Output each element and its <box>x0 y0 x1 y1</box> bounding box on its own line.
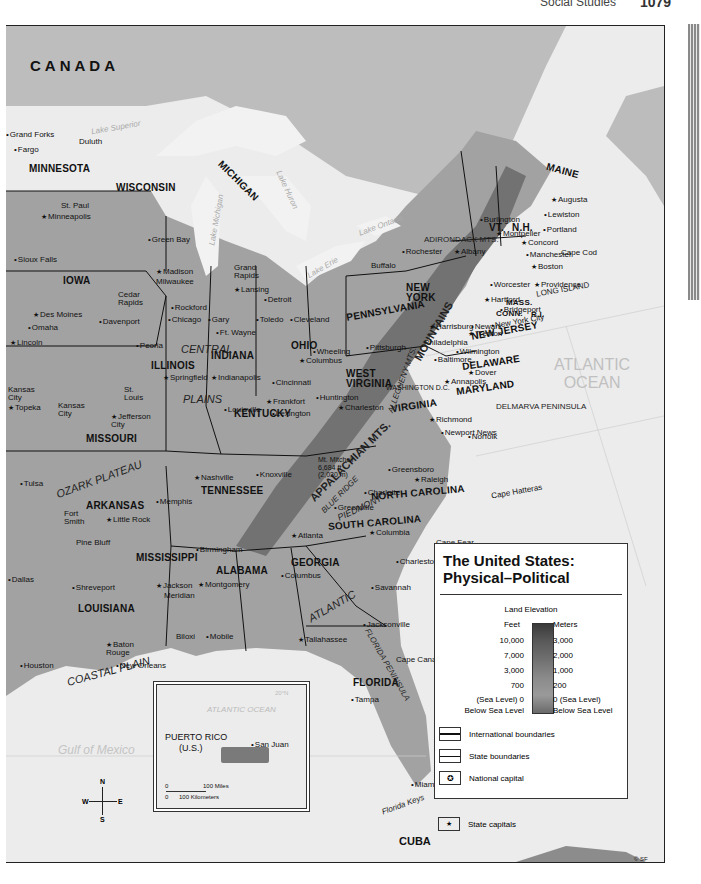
page-number: 1079 <box>640 0 671 10</box>
legend-state-capitals: ★ State capitals <box>438 817 516 831</box>
city-providence: Providence <box>534 281 581 289</box>
elevation-color-ramp <box>532 623 554 714</box>
city-richmond: Richmond <box>429 416 472 424</box>
city-louisville: Louisville <box>224 406 261 414</box>
city-kansas-city-mo: Kansas City <box>58 402 86 418</box>
state-georgia: GEORGIA <box>291 558 340 568</box>
city-baton-rouge: Baton Rouge <box>106 641 136 657</box>
city-jacksonville: Jacksonville <box>363 621 410 629</box>
international-boundary-icon <box>439 727 461 741</box>
city-knoxville: Knoxville <box>256 471 292 479</box>
city-hartford: Hartford <box>484 296 520 304</box>
inset-name-line1: PUERTO RICO <box>165 733 227 742</box>
city-portland: Portland <box>543 226 577 234</box>
state-arkansas: ARKANSAS <box>86 501 144 511</box>
city-toledo: Toledo <box>256 316 283 324</box>
city-jackson: Jackson <box>156 582 192 590</box>
copyright-label: © SF <box>634 856 648 862</box>
meters-header: Meters <box>553 620 577 629</box>
city-philadelphia: Philadelphia <box>424 339 468 347</box>
city-miami: Miami <box>411 781 436 789</box>
legend-international-boundaries: International boundaries <box>439 727 555 741</box>
city-st-paul: St. Paul <box>61 202 89 210</box>
land-elevation-title: Land Elevation <box>435 605 627 614</box>
state-illinois: ILLINOIS <box>151 361 195 371</box>
inset-ocean-label: ATLANTIC OCEAN <box>207 706 276 714</box>
gulf-of-mexico-label: Gulf of Mexico <box>58 744 135 756</box>
elevation-feet-3: 3,000 <box>504 666 524 675</box>
legend-national-capital: ✪ National capital <box>439 771 524 785</box>
city-springfield: Springfield <box>163 374 208 382</box>
state-tennessee: TENNESSEE <box>201 486 263 496</box>
state-mississippi: MISSISSIPPI <box>136 553 198 563</box>
city-tampa: Tampa <box>351 696 379 704</box>
state-louisiana: LOUISIANA <box>78 604 135 614</box>
city-concord: Concord <box>521 239 558 247</box>
city-lexington: Lexington <box>272 410 311 418</box>
city-albany: Albany <box>454 248 485 256</box>
city-wheeling: Wheeling <box>313 348 350 356</box>
city-rockford: Rockford <box>171 304 207 312</box>
city-charlotte: Charlotte <box>364 489 400 497</box>
elevation-feet-4: 700 <box>511 681 524 690</box>
puerto-rico-inset: ATLANTIC OCEAN 20°N PUERTO RICO (U.S.) S… <box>153 681 310 812</box>
feet-header: Feet <box>504 620 520 629</box>
subject-label: Social Studies <box>540 0 616 9</box>
city-boston: Boston <box>531 263 563 271</box>
city-new-orleans: New Orleans <box>116 662 166 670</box>
legend-divider <box>440 594 622 595</box>
city-manchester: Manchester <box>526 251 572 259</box>
region-delmarva-peninsula: DELMARVA PENINSULA <box>496 403 586 411</box>
city-annapolis: Annapolis <box>444 378 486 386</box>
city-harrisburg: Harrisburg <box>429 323 473 331</box>
city-charleston-sc: Charleston <box>396 558 439 566</box>
region-central: CENTRAL <box>181 344 232 355</box>
city-houston: Houston <box>20 662 54 670</box>
city-burlington: Burlington <box>480 216 520 224</box>
city-savannah: Savannah <box>371 584 411 592</box>
city-memphis: Memphis <box>156 498 192 506</box>
city-grand-rapids: Grand Rapids <box>234 264 264 280</box>
city-madison: Madison <box>156 268 193 276</box>
city-indianapolis: Indianapolis <box>211 374 261 382</box>
city-augusta: Augusta <box>551 196 587 204</box>
city-meridian: Meridian <box>164 592 195 600</box>
city-montpelier: Montpelier <box>496 230 540 238</box>
inset-scale-bar <box>166 791 206 792</box>
state-boundary-icon <box>439 749 461 763</box>
city-washington-dc: WASHINGTON D.C. <box>386 384 450 391</box>
city-minneapolis: Minneapolis <box>41 213 91 221</box>
city-charleston-wv: Charleston <box>338 404 384 412</box>
city-tallahassee: Tallahassee <box>298 636 347 644</box>
city-grand-forks: Grand Forks <box>6 131 54 139</box>
elevation-meters-5: 0 (Sea Level) <box>553 695 601 704</box>
state-capital-icon: ★ <box>438 817 460 831</box>
city-frankfort: Frankfort <box>266 398 305 406</box>
legend-state-boundaries: State boundaries <box>439 749 530 763</box>
city-kansas-city-ks: Kansas City <box>8 386 34 402</box>
city-raleigh: Raleigh <box>414 476 448 484</box>
city-little-rock: Little Rock <box>106 516 150 524</box>
state-minnesota: MINNESOTA <box>29 164 90 174</box>
city-cincinnati: Cincinnati <box>272 379 311 387</box>
city-omaha: Omaha <box>28 324 58 332</box>
elevation-feet-1: 10,000 <box>500 636 524 645</box>
city-huntington: Huntington <box>316 394 359 402</box>
city-rochester: Rochester <box>402 248 442 256</box>
city-green-bay: Green Bay <box>148 236 190 244</box>
city-milwaukee: Milwaukee <box>156 278 194 286</box>
city-jefferson-city: Jefferson City <box>111 413 151 429</box>
state-alabama: ALABAMA <box>216 566 268 576</box>
city-davenport: Davenport <box>99 318 140 326</box>
elevation-meters-2: 2,000 <box>553 651 573 660</box>
city-trenton: Trenton <box>468 330 502 338</box>
city-birmingham: Birmingham <box>196 546 243 554</box>
city-buffalo: Buffalo <box>371 262 396 270</box>
elevation-meters-1: 3,000 <box>553 636 573 645</box>
state-wisconsin: WISCONSIN <box>116 183 176 193</box>
city-fargo: Fargo <box>14 146 39 154</box>
city-dover: Dover <box>468 369 496 377</box>
atlantic-ocean-label: ATLANTICOCEAN <box>554 356 630 391</box>
region-plains: PLAINS <box>183 394 222 405</box>
country-label-canada: CANADA <box>30 58 119 73</box>
